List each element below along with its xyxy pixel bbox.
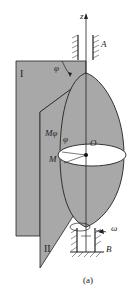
label-a: A: [100, 39, 107, 49]
z-axis-arrow-icon: [84, 13, 88, 19]
label-m-phi: Mφ: [44, 128, 57, 138]
label-plane-2: II: [44, 243, 51, 254]
label-o: O: [90, 138, 97, 148]
diagram-canvas: z A I φ Mφ φ M O II ω B (a): [0, 0, 136, 297]
label-b: B: [106, 244, 112, 254]
label-plane-1: I: [20, 68, 23, 79]
label-phi: φ: [54, 63, 59, 73]
center-point: [84, 153, 88, 157]
label-z: z: [79, 11, 84, 21]
figure-caption: (a): [83, 275, 93, 285]
omega-arrowhead-icon: [98, 229, 104, 234]
label-omega: ω: [111, 223, 117, 233]
bearing-a-hatch: [72, 35, 99, 58]
label-phi-small: φ: [63, 134, 68, 144]
label-m: M: [48, 154, 57, 164]
